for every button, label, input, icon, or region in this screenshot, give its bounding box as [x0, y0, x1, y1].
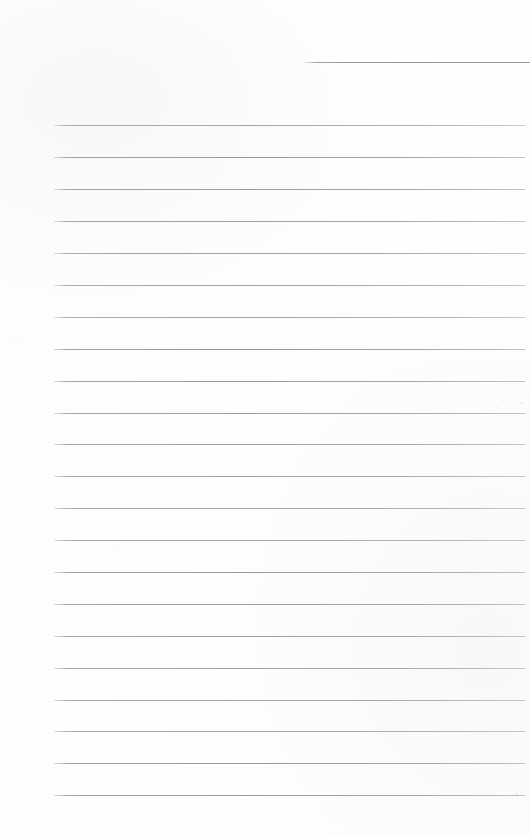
page-body-text — [0, 0, 530, 835]
scanned-ruled-page — [0, 0, 530, 835]
